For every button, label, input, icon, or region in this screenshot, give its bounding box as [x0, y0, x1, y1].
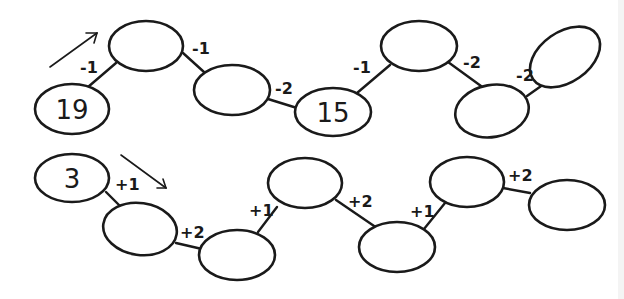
node-top-2[interactable]: [109, 21, 183, 71]
node-bottom-5[interactable]: [359, 222, 435, 272]
step-label: +1: [115, 175, 140, 194]
step-label: +2: [180, 223, 205, 242]
node-top-5[interactable]: [381, 21, 457, 71]
node-bottom-4[interactable]: [268, 158, 342, 208]
step-label: +1: [410, 202, 435, 221]
step-label: +1: [249, 201, 274, 220]
node-bottom-7[interactable]: [529, 180, 605, 230]
node-top-4: 15: [295, 88, 371, 136]
node-top-1: 19: [35, 84, 109, 134]
node-top-3[interactable]: [194, 65, 270, 115]
step-label: -1: [80, 58, 98, 77]
connector: [503, 188, 530, 193]
step-label: -1: [353, 58, 371, 77]
connector: [176, 243, 202, 249]
node-bottom-3[interactable]: [199, 230, 275, 280]
number-chain-diagram: 19 15 -1 -1 -2 -1 -2 -2 3: [0, 0, 624, 299]
node-top-6[interactable]: [451, 79, 533, 143]
connector: [268, 99, 297, 108]
node-bottom-2[interactable]: [100, 198, 181, 260]
step-label: +2: [348, 192, 373, 211]
node-top-7[interactable]: [519, 14, 612, 100]
step-label: -1: [192, 39, 210, 58]
step-label: -2: [275, 79, 293, 98]
step-label: +2: [508, 166, 533, 185]
node-bottom-1: 3: [35, 154, 109, 202]
node-value: 3: [64, 164, 81, 194]
node-bottom-6[interactable]: [430, 157, 504, 207]
step-label: -2: [516, 66, 534, 85]
node-value: 15: [316, 98, 349, 128]
node-value: 19: [55, 95, 88, 125]
step-label: -2: [463, 53, 481, 72]
